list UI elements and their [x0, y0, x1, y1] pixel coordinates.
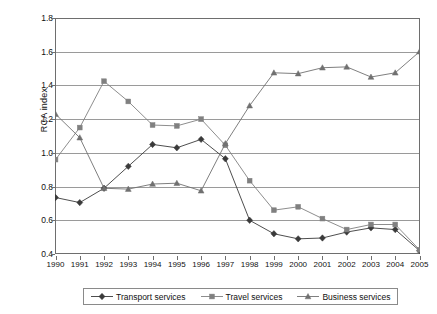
y-axis-tick-label: 1.8 — [27, 13, 53, 23]
legend-label: Transport services — [116, 292, 186, 302]
data-point-marker — [296, 204, 301, 209]
x-axis-tick-label: 2001 — [314, 260, 332, 269]
series-business-services — [55, 49, 420, 193]
chart-container: RCA index 0.40.60.81.01.21.41.61.8 19901… — [0, 0, 437, 314]
data-point-marker — [174, 145, 180, 151]
x-axis-tick-label: 2004 — [386, 260, 404, 269]
data-point-marker — [247, 178, 252, 183]
legend-item[interactable]: Business services — [297, 292, 390, 302]
x-axis-tick-label: 1991 — [71, 260, 89, 269]
x-axis-tick-label: 1990 — [47, 260, 65, 269]
data-point-marker — [77, 199, 83, 205]
series-layer — [55, 18, 420, 254]
data-point-marker — [55, 111, 58, 116]
x-axis-ticks: 1990199119921993199419951996199719981999… — [55, 256, 420, 276]
series-line — [56, 52, 420, 191]
data-point-marker — [55, 157, 58, 162]
x-axis-tick-label: 2002 — [338, 260, 356, 269]
data-point-marker — [199, 117, 204, 122]
series-line — [56, 81, 420, 250]
data-point-marker — [126, 99, 131, 104]
data-point-marker — [295, 236, 301, 242]
y-axis-tick-label: 1.4 — [27, 80, 53, 90]
data-point-marker — [320, 216, 325, 221]
x-axis-tick-mark — [104, 256, 105, 260]
y-axis-tick-label: 1.2 — [27, 114, 53, 124]
data-point-marker — [344, 227, 349, 232]
x-axis-tick-mark — [250, 256, 251, 260]
x-axis-tick-label: 1993 — [119, 260, 137, 269]
y-axis-tick-label: 1.0 — [27, 148, 53, 158]
data-point-marker — [150, 123, 155, 128]
data-point-marker — [271, 231, 277, 237]
data-point-marker — [77, 125, 82, 130]
x-axis-tick-label: 1999 — [265, 260, 283, 269]
data-point-marker — [99, 293, 105, 299]
legend-marker-square-icon — [201, 292, 223, 301]
x-axis-tick-label: 1998 — [241, 260, 259, 269]
series-transport-services — [55, 136, 420, 254]
x-axis-tick-mark — [395, 256, 396, 260]
y-axis-tick-label: 1.6 — [27, 47, 53, 57]
x-axis-tick-mark — [420, 256, 421, 260]
x-axis-tick-label: 2005 — [411, 260, 429, 269]
x-axis-tick-mark — [322, 256, 323, 260]
data-point-marker — [369, 222, 374, 227]
legend-item[interactable]: Transport services — [91, 292, 186, 302]
y-axis-tick-label: 0.8 — [27, 182, 53, 192]
x-axis-tick-mark — [153, 256, 154, 260]
x-axis-tick-mark — [371, 256, 372, 260]
x-axis-tick-label: 1992 — [95, 260, 113, 269]
x-axis-tick-label: 1997 — [216, 260, 234, 269]
data-point-marker — [417, 49, 420, 54]
x-axis-tick-mark — [347, 256, 348, 260]
x-axis-tick-mark — [56, 256, 57, 260]
data-point-marker — [247, 217, 253, 223]
x-axis-tick-mark — [177, 256, 178, 260]
data-point-marker — [417, 247, 420, 252]
x-axis-tick-mark — [298, 256, 299, 260]
legend-label: Travel services — [226, 292, 283, 302]
x-axis-tick-label: 2000 — [289, 260, 307, 269]
x-axis-tick-mark — [80, 256, 81, 260]
y-axis-tick-label: 0.6 — [27, 215, 53, 225]
legend-label: Business services — [322, 292, 390, 302]
data-point-marker — [319, 235, 325, 241]
data-point-marker — [102, 79, 107, 84]
y-axis-tick-label: 0.4 — [27, 249, 53, 259]
x-axis-tick-label: 2003 — [362, 260, 380, 269]
series-travel-services — [55, 79, 420, 252]
x-axis-tick-mark — [225, 256, 226, 260]
x-axis-tick-mark — [201, 256, 202, 260]
legend-marker-diamond-icon — [91, 292, 113, 301]
y-axis-ticks: 0.40.60.81.01.21.41.61.8 — [22, 18, 53, 254]
series-line — [56, 139, 420, 250]
x-axis-tick-label: 1994 — [144, 260, 162, 269]
data-point-marker — [393, 222, 398, 227]
x-axis-tick-mark — [274, 256, 275, 260]
data-point-marker — [272, 208, 277, 213]
data-point-marker — [209, 294, 214, 299]
legend-marker-triangle-icon — [297, 292, 319, 301]
y-axis-tick-mark — [51, 254, 55, 255]
data-point-marker — [55, 194, 59, 200]
x-axis-tick-label: 1995 — [168, 260, 186, 269]
legend-item[interactable]: Travel services — [201, 292, 283, 302]
x-axis-tick-mark — [128, 256, 129, 260]
x-axis-tick-label: 1996 — [192, 260, 210, 269]
data-point-marker — [174, 123, 179, 128]
chart-legend: Transport servicesTravel servicesBusines… — [83, 288, 398, 305]
